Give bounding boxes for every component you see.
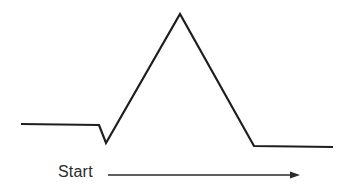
start-label: Start — [58, 163, 93, 181]
waveform-diagram — [0, 0, 345, 186]
arrow-head-icon — [290, 172, 300, 179]
waveform-line — [21, 14, 333, 147]
